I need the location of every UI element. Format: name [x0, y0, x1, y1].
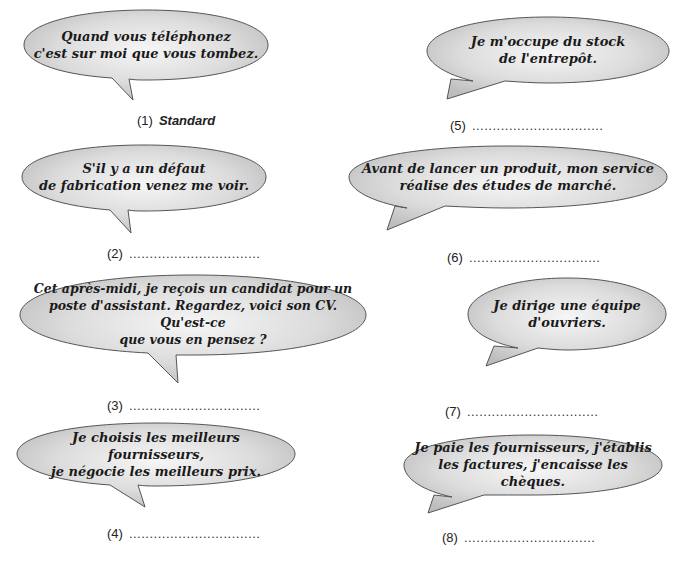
bubble-text-7: Je dirige une équipe d'ouvriers.: [476, 286, 658, 342]
bubble-text-8: Je paie les fournisseurs, j'établis les …: [412, 439, 654, 489]
speech-bubble-6: Avant de lancer un produit, mon service …: [347, 144, 669, 232]
answer-3: (3)................................: [107, 398, 260, 413]
answer-8: (8)................................: [442, 530, 595, 545]
answer-3-blank[interactable]: ................................: [129, 398, 261, 413]
answer-7: (7)................................: [445, 404, 598, 419]
bubble-text-6: Avant de lancer un produit, mon service …: [357, 152, 659, 202]
answer-4-blank[interactable]: ................................: [129, 526, 261, 541]
speech-bubble-4: Je choisis les meilleurs fournisseurs, j…: [15, 421, 297, 509]
bubble-text-5: Je m'occupe du stock de l'entrepôt.: [435, 23, 661, 77]
answer-6: (6)................................: [447, 250, 600, 265]
bubble-text-2: S'il y a un défaut de fabrication venez …: [30, 151, 258, 203]
answer-1-value: Standard: [159, 113, 215, 128]
answer-2-blank[interactable]: ................................: [129, 246, 261, 261]
answer-8-blank[interactable]: ................................: [464, 530, 596, 545]
speech-bubble-7: Je dirige une équipe d'ouvriers.: [466, 276, 668, 366]
answer-4: (4)................................: [107, 526, 260, 541]
speech-bubble-1: Quand vous téléphonez c'est sur moi que …: [22, 8, 270, 100]
speech-bubble-3: Cet après-midi, je reçois un candidat po…: [18, 273, 368, 383]
bubble-text-4: Je choisis les meilleurs fournisseurs, j…: [25, 429, 287, 479]
answer-2: (2)................................: [107, 246, 260, 261]
speech-bubble-2: S'il y a un défaut de fabrication venez …: [20, 143, 268, 235]
speech-bubble-8: Je paie les fournisseurs, j'établis les …: [402, 433, 664, 515]
bubble-text-3: Cet après-midi, je reçois un candidat po…: [28, 281, 358, 347]
answer-7-blank[interactable]: ................................: [467, 404, 599, 419]
bubble-text-1: Quand vous téléphonez c'est sur moi que …: [32, 18, 260, 72]
answer-5: (5)................................: [450, 118, 603, 133]
answer-6-blank[interactable]: ................................: [469, 250, 601, 265]
answer-1: (1)Standard: [137, 113, 215, 128]
answer-5-blank[interactable]: ................................: [472, 118, 604, 133]
speech-bubble-5: Je m'occupe du stock de l'entrepôt.: [425, 15, 671, 101]
